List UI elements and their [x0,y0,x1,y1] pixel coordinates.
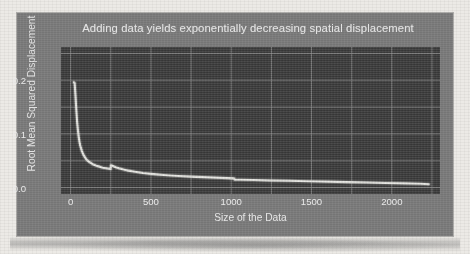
chart-figure: Adding data yields exponentially decreas… [17,13,453,236]
gridlines [61,47,440,194]
x-tick-label: 1000 [211,196,251,207]
x-tick-label: 1500 [292,196,332,207]
y-axis-label: Root Mean Squared Displacement [26,9,37,179]
plot-area [61,47,440,194]
plot-svg [61,47,440,194]
x-tick-label: 0 [51,196,91,207]
x-axis-label: Size of the Data [61,212,440,223]
x-tick-label: 2000 [372,196,412,207]
y-tick-label: 0.2 [0,75,26,86]
x-tick-label: 500 [131,196,171,207]
chart-title: Adding data yields exponentially decreas… [17,22,453,34]
page-smudge-artifact [10,236,460,252]
data-series-layer [74,82,429,184]
series-line-halo [74,82,429,184]
y-tick-label: 0.1 [0,128,26,139]
y-tick-label: 0.0 [0,182,26,193]
